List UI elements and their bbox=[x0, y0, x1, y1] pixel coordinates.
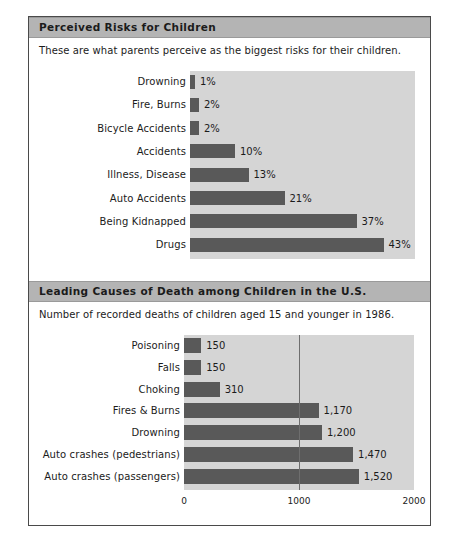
bar-category-label: Falls bbox=[29, 362, 180, 373]
bar-value-label: 43% bbox=[389, 239, 411, 250]
bar-category-label: Auto Accidents bbox=[29, 193, 186, 204]
bar bbox=[184, 382, 220, 397]
panel-perceived-risks: Perceived Risks for Children These are w… bbox=[29, 17, 430, 281]
bar bbox=[184, 469, 359, 484]
bar-category-label: Accidents bbox=[29, 146, 186, 157]
bar-category-label: Drugs bbox=[29, 239, 186, 250]
bar-category-label: Drowning bbox=[29, 76, 186, 87]
bar bbox=[190, 121, 199, 135]
bar bbox=[190, 144, 235, 158]
panel-subtitle-1: These are what parents perceive as the b… bbox=[39, 45, 401, 56]
figure-container: Perceived Risks for Children These are w… bbox=[28, 16, 431, 526]
bar-category-label: Illness, Disease bbox=[29, 169, 186, 180]
bar bbox=[190, 214, 357, 228]
panel-subtitle-2: Number of recorded deaths of children ag… bbox=[39, 309, 394, 320]
bar bbox=[190, 98, 199, 112]
bar bbox=[184, 447, 353, 462]
bar-value-label: 21% bbox=[290, 193, 312, 204]
bar-value-label: 13% bbox=[254, 169, 276, 180]
bar-value-label: 2% bbox=[204, 99, 220, 110]
panel-divider bbox=[29, 260, 430, 281]
bar bbox=[190, 168, 249, 182]
bar-category-label: Choking bbox=[29, 384, 180, 395]
gridline bbox=[299, 335, 300, 490]
bar-value-label: 1,200 bbox=[327, 427, 356, 438]
bar-category-label: Poisoning bbox=[29, 340, 180, 351]
bar-value-label: 10% bbox=[240, 146, 262, 157]
bar-category-label: Drowning bbox=[29, 427, 180, 438]
chart-plot-area-1 bbox=[190, 71, 415, 259]
bar-value-label: 310 bbox=[225, 384, 244, 395]
bar bbox=[190, 238, 384, 252]
bar-category-label: Being Kidnapped bbox=[29, 216, 186, 227]
bar bbox=[190, 75, 195, 89]
bar-category-label: Auto crashes (pedestrians) bbox=[29, 449, 180, 460]
panel-leading-causes: Leading Causes of Death among Children i… bbox=[29, 281, 430, 525]
bar bbox=[190, 191, 285, 205]
bar-value-label: 150 bbox=[206, 340, 225, 351]
x-axis-tick-label: 1000 bbox=[274, 496, 324, 506]
bar-value-label: 37% bbox=[362, 216, 384, 227]
panel-title-2: Leading Causes of Death among Children i… bbox=[39, 285, 367, 297]
bar-value-label: 2% bbox=[204, 123, 220, 134]
bar-value-label: 1,520 bbox=[364, 471, 393, 482]
x-axis-tick-label: 0 bbox=[159, 496, 209, 506]
bar bbox=[184, 338, 201, 353]
bar-value-label: 1,470 bbox=[358, 449, 387, 460]
bar-category-label: Fires & Burns bbox=[29, 405, 180, 416]
x-axis-tick-label: 2000 bbox=[389, 496, 439, 506]
bar-category-label: Fire, Burns bbox=[29, 99, 186, 110]
bar-value-label: 1,170 bbox=[324, 405, 353, 416]
bar-value-label: 150 bbox=[206, 362, 225, 373]
bar bbox=[184, 360, 201, 375]
bar-category-label: Auto crashes (passengers) bbox=[29, 471, 180, 482]
bar-category-label: Bicycle Accidents bbox=[29, 123, 186, 134]
panel-title-1: Perceived Risks for Children bbox=[39, 21, 216, 33]
bar bbox=[184, 425, 322, 440]
bar-value-label: 1% bbox=[200, 76, 216, 87]
